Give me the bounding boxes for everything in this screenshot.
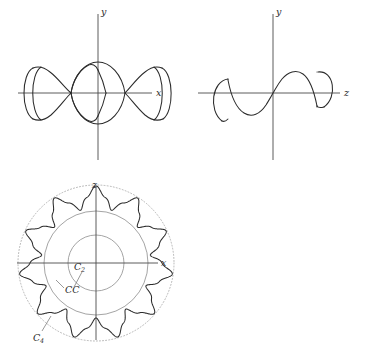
figure-root: x y z y xyxy=(0,0,366,351)
xy-right-outer-cap xyxy=(162,68,171,119)
xy-lobe-1-lower xyxy=(33,93,71,120)
xy-left-inner-cap xyxy=(33,67,41,120)
leader-line-cc xyxy=(56,280,64,288)
zy-y-axis-label: y xyxy=(275,6,282,17)
panel-xz-projection: C 2 CC C 4 x z xyxy=(17,179,174,345)
label-cc: CC xyxy=(65,284,80,295)
label-c4: C 4 xyxy=(33,332,44,345)
label-cc-text: CC xyxy=(65,284,80,295)
xy-x-axis-label: x xyxy=(156,87,162,98)
zy-right-cap-close xyxy=(317,106,324,108)
xy-left-outer-cap xyxy=(24,68,33,119)
xy-lobe-1-upper xyxy=(33,67,71,93)
xy-lobe-2-upper-right xyxy=(98,70,106,93)
label-c2-subscript: 2 xyxy=(80,266,85,274)
zy-right-cap xyxy=(318,72,333,107)
xy-y-axis-label: y xyxy=(100,6,107,17)
xz-z-axis-label: z xyxy=(91,179,98,190)
zy-z-axis-label: z xyxy=(343,87,350,98)
xy-lobe-2-lower-right xyxy=(98,93,106,116)
panel-zy-projection: z y xyxy=(198,6,350,160)
zy-left-cap xyxy=(213,79,228,121)
zy-left-cap-close xyxy=(222,119,228,121)
panel-xy-projection: x y xyxy=(18,6,171,160)
label-c4-subscript: 4 xyxy=(39,337,44,345)
leader-line-c4 xyxy=(42,316,51,331)
xz-x-axis-label: x xyxy=(161,257,167,268)
projections-figure: x y z y xyxy=(0,0,366,351)
